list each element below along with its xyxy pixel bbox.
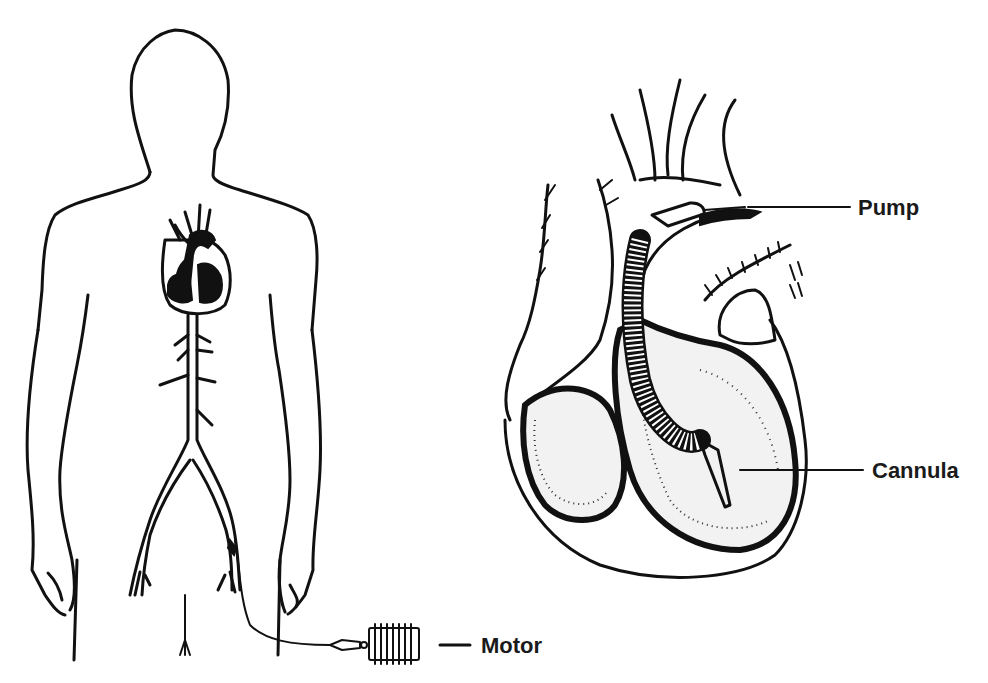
motor-label: Motor <box>481 635 542 657</box>
figure-canvas: Pump Cannula Motor <box>0 0 988 683</box>
left-atrium <box>719 290 775 344</box>
pump-label: Pump <box>858 197 919 219</box>
cannula-label: Cannula <box>872 460 959 482</box>
right-atrium <box>506 185 548 420</box>
right-ventricle <box>523 389 624 520</box>
heart-illustration <box>0 0 988 683</box>
